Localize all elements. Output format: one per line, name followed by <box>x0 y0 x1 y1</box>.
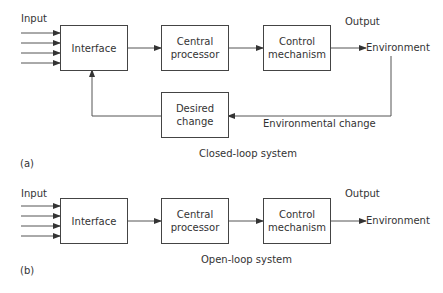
caption-b: Open-loop system <box>201 254 292 265</box>
interface-box-b: Interface <box>60 198 128 244</box>
output-label-a: Output <box>345 16 380 27</box>
control-mechanism-box-b: Control mechanism <box>263 198 331 244</box>
input-label-b: Input <box>21 188 47 199</box>
desired-change-line1: Desired <box>176 102 214 115</box>
output-label-b: Output <box>345 188 380 199</box>
control-mechanism-line1-a: Control <box>279 35 315 48</box>
desired-change-box: Desired change <box>161 92 229 138</box>
central-processor-box-a: Central processor <box>161 25 229 71</box>
central-processor-line2-a: processor <box>171 48 220 61</box>
interface-label-b: Interface <box>72 215 117 228</box>
central-processor-line2-b: processor <box>171 221 220 234</box>
control-mechanism-line2-b: mechanism <box>268 221 326 234</box>
central-processor-line1-a: Central <box>177 35 213 48</box>
caption-a: Closed-loop system <box>199 148 297 159</box>
interface-label-a: Interface <box>72 42 117 55</box>
desired-change-line2: change <box>177 115 214 128</box>
control-mechanism-line1-b: Control <box>279 208 315 221</box>
environmental-change-label: Environmental change <box>263 118 376 129</box>
tag-b: (b) <box>20 265 34 276</box>
interface-box-a: Interface <box>60 25 128 71</box>
input-label-a: Input <box>21 13 47 24</box>
environment-label-b: Environment <box>366 215 430 226</box>
tag-a: (a) <box>20 158 34 169</box>
environment-label-a: Environment <box>366 42 430 53</box>
central-processor-line1-b: Central <box>177 208 213 221</box>
central-processor-box-b: Central processor <box>161 198 229 244</box>
control-mechanism-box-a: Control mechanism <box>263 25 331 71</box>
control-mechanism-line2-a: mechanism <box>268 48 326 61</box>
